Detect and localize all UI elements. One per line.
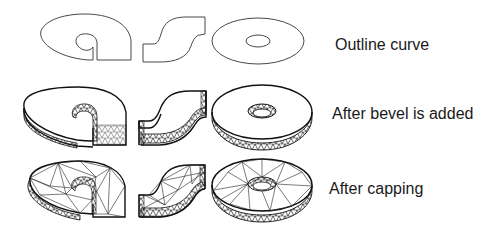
- letter-o-bevel: [212, 85, 312, 150]
- label-after-bevel: After bevel is added: [332, 105, 473, 123]
- letter-a-bevel: [24, 85, 128, 148]
- letter-o-capped: [212, 159, 312, 222]
- cap-triangulation-a: [30, 161, 125, 217]
- letter-a-outline: [41, 14, 131, 60]
- row-capping: [28, 159, 312, 222]
- letter-s-bevel: [139, 91, 206, 145]
- letter-o-outline: [212, 18, 304, 64]
- letter-o-hole-outline: [246, 35, 270, 47]
- row-bevel: [24, 85, 312, 150]
- label-outline-curve: Outline curve: [335, 36, 429, 54]
- letter-s-outline: [143, 17, 205, 62]
- row-outline: [41, 14, 304, 64]
- label-after-capping: After capping: [329, 180, 423, 198]
- letter-s-capped: [139, 165, 205, 217]
- letter-a-capped: [28, 161, 125, 220]
